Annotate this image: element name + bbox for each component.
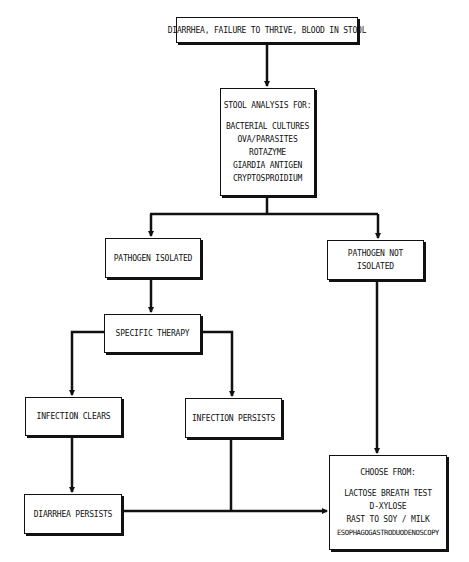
node-choose-from: CHOOSE FROM: LACTOSE BREATH TEST D-XYLOS… (329, 455, 447, 550)
stool-analysis-item: GIARDIA ANTIGEN (233, 159, 302, 172)
choose-from-item: ESOPHAGOGASTRODUODENOSCOPY (337, 526, 439, 539)
stool-analysis-title: STOOL ANALYSIS FOR: (224, 99, 312, 112)
stool-analysis-item: BACTERIAL CULTURES (226, 120, 309, 133)
stool-analysis-item: ROTAZYME (249, 146, 286, 159)
choose-from-item: D-XYLOSE (370, 500, 407, 513)
choose-from-item: LACTOSE BREATH TEST (344, 487, 432, 500)
infection-persists-label: INFECTION PERSISTS (192, 412, 275, 425)
node-diarrhea-persists: DIARRHEA PERSISTS (24, 494, 122, 534)
stool-analysis-item: OVA/PARASITES (237, 133, 297, 146)
pathogen-not-isolated-line2: ISOLATED (357, 260, 394, 273)
node-pathogen-not-isolated: PATHOGEN NOT ISOLATED (327, 240, 424, 280)
stool-analysis-item: CRYPTOSPROIDIUM (233, 172, 302, 185)
pathogen-not-isolated-line1: PATHOGEN NOT (348, 247, 403, 260)
node-stool-analysis: STOOL ANALYSIS FOR: BACTERIAL CULTURES O… (220, 88, 315, 196)
infection-clears-label: INFECTION CLEARS (37, 410, 111, 423)
node-infection-clears: INFECTION CLEARS (25, 397, 122, 436)
node-symptoms: DIARRHEA, FAILURE TO THRIVE, BLOOD IN ST… (176, 17, 358, 43)
symptoms-label: DIARRHEA, FAILURE TO THRIVE, BLOOD IN ST… (168, 24, 367, 37)
diarrhea-persists-label: DIARRHEA PERSISTS (34, 508, 112, 521)
node-specific-therapy: SPECIFIC THERAPY (104, 314, 201, 353)
pathogen-isolated-label: PATHOGEN ISOLATED (114, 252, 192, 265)
specific-therapy-label: SPECIFIC THERAPY (116, 327, 190, 340)
choose-from-title: CHOOSE FROM: (360, 466, 415, 479)
node-pathogen-isolated: PATHOGEN ISOLATED (105, 238, 201, 278)
choose-from-item: RAST TO SOY / MILK (346, 513, 429, 526)
node-infection-persists: INFECTION PERSISTS (185, 398, 282, 438)
